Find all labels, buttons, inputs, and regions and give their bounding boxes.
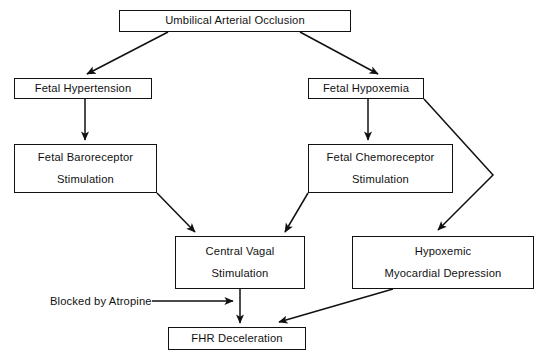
node-label-line2: Myocardial Depression [385,268,502,280]
node-label: Umbilical Arterial Occlusion [165,15,305,27]
annotation-blocked-by-atropine: Blocked by Atropine [50,295,152,307]
edge-baroreceptor-to-central-vagal [157,193,195,232]
edge-occlusion-to-hypertension [87,32,168,74]
edge-chemoreceptor-to-central-vagal [285,193,308,232]
annotation-text: Blocked by Atropine [50,295,152,307]
node-fetal-baroreceptor-stimulation[interactable]: Fetal Baroreceptor Stimulation [14,144,157,193]
node-fetal-chemoreceptor-stimulation[interactable]: Fetal Chemoreceptor Stimulation [308,144,453,193]
node-fetal-hypertension[interactable]: Fetal Hypertension [14,78,152,99]
node-label-line1: Hypoxemic [415,246,472,258]
edge-myocardial-depression-to-fhr-deceleration [279,289,393,322]
node-label-line2: Stimulation [212,268,269,280]
edge-occlusion-to-hypoxemia [300,32,378,74]
node-fetal-hypoxemia[interactable]: Fetal Hypoxemia [308,78,424,99]
node-label-line1: Central Vagal [206,246,275,258]
node-label: Fetal Hypoxemia [323,83,409,95]
node-label-line2: Stimulation [57,174,114,186]
node-fhr-deceleration[interactable]: FHR Deceleration [168,327,306,350]
flowchart-diagram: Umbilical Arterial Occlusion Fetal Hyper… [0,0,546,360]
node-label: Fetal Hypertension [35,83,132,95]
node-label-line2: Stimulation [352,174,409,186]
node-umbilical-arterial-occlusion[interactable]: Umbilical Arterial Occlusion [119,10,351,32]
node-hypoxemic-myocardial-depression[interactable]: Hypoxemic Myocardial Depression [352,236,534,289]
node-label-line1: Fetal Baroreceptor [38,152,133,164]
node-central-vagal-stimulation[interactable]: Central Vagal Stimulation [175,236,305,289]
node-label: FHR Deceleration [191,333,282,345]
node-label-line1: Fetal Chemoreceptor [327,152,435,164]
